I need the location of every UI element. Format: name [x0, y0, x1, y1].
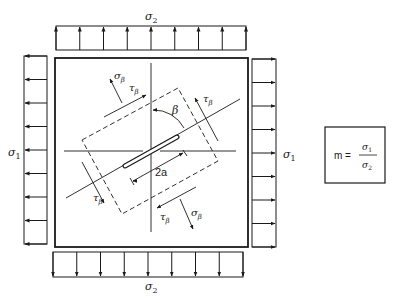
- tau-beta-label-right: τβ: [203, 93, 213, 107]
- tau-beta-arrow-bottom: [157, 187, 196, 208]
- bottom-load-distribution: [53, 252, 243, 277]
- left-load-distribution: [24, 56, 47, 244]
- top-load-distribution: [56, 26, 246, 50]
- left-load-label: σ1: [8, 146, 21, 161]
- tau-beta-label-top: τβ: [129, 82, 139, 96]
- right-load-label: σ1: [283, 148, 296, 163]
- beta-label: β: [171, 104, 178, 117]
- sigma-beta-label-bottom: σβ: [191, 207, 202, 221]
- formula-denominator: σ2: [362, 160, 372, 171]
- top-load-label: σ2: [145, 10, 158, 25]
- tau-beta-label-left: τβ: [93, 192, 103, 206]
- ratio-formula-box: m = σ1 σ2: [325, 127, 385, 183]
- formula-numerator: σ1: [362, 142, 372, 153]
- tau-beta-arrow-top: [104, 95, 146, 117]
- bottom-load-label: σ2: [145, 280, 158, 295]
- tau-beta-label-bottom: τβ: [160, 211, 170, 225]
- crack-length-label: 2a: [155, 166, 168, 178]
- right-load-distribution: [252, 59, 276, 247]
- sigma-beta-label-top: σβ: [114, 70, 125, 84]
- beta-angle-arc: [153, 110, 184, 128]
- crack-plate-diagram: σ2 σ2 σ1 σ1 β 2a σ: [0, 0, 400, 303]
- tau-beta-arrow-right: [195, 98, 218, 141]
- formula-lhs: m =: [334, 150, 351, 161]
